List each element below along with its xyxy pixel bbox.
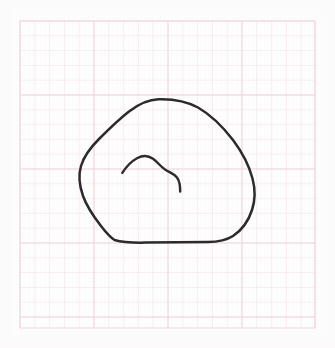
inner-hill-curve xyxy=(122,156,180,191)
hand-drawn-blob-sketch xyxy=(0,0,335,348)
scanned-drawing-page xyxy=(0,0,335,348)
